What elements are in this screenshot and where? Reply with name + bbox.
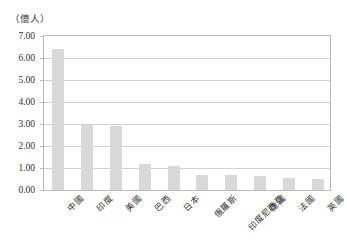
chart-figure: （億人） 0.001.002.003.004.005.006.007.00 中國… xyxy=(0,0,347,251)
bar xyxy=(196,175,208,190)
x-tick-label: 中國 xyxy=(67,194,86,213)
x-tick-label: 美國 xyxy=(124,194,143,213)
x-tick-label: 日本 xyxy=(182,194,201,213)
y-tick-label: 6.00 xyxy=(18,53,35,63)
x-tick-label: 印度 xyxy=(95,194,114,213)
y-tick-label: 1.00 xyxy=(18,163,35,173)
x-tick-label: 巴西 xyxy=(153,194,172,213)
x-tick-label: 法國 xyxy=(297,194,316,213)
bar xyxy=(139,164,151,190)
bar xyxy=(254,176,266,190)
bar xyxy=(225,175,237,190)
y-tick-label: 4.00 xyxy=(18,97,35,107)
plot-area xyxy=(43,35,331,191)
y-tick-label: 2.00 xyxy=(18,141,35,151)
bar xyxy=(168,166,180,190)
x-tick-label: 俄羅斯 xyxy=(213,194,238,219)
bar xyxy=(283,178,295,190)
bars-layer xyxy=(44,36,330,190)
y-tick-label: 5.00 xyxy=(18,75,35,85)
bar xyxy=(312,179,324,190)
y-axis: 0.001.002.003.004.005.006.007.00 xyxy=(0,0,40,251)
y-tick-label: 0.00 xyxy=(18,185,35,195)
bar xyxy=(81,125,93,190)
y-tick-label: 7.00 xyxy=(18,31,35,41)
x-axis: 中國印度美國巴西日本俄羅斯印度尼西亞德國法國英國 xyxy=(43,191,331,251)
x-tick-label: 英國 xyxy=(326,194,345,213)
y-tick-label: 3.00 xyxy=(18,119,35,129)
bar xyxy=(52,49,64,190)
x-tick-label: 德國 xyxy=(268,194,287,213)
bar xyxy=(110,126,122,190)
